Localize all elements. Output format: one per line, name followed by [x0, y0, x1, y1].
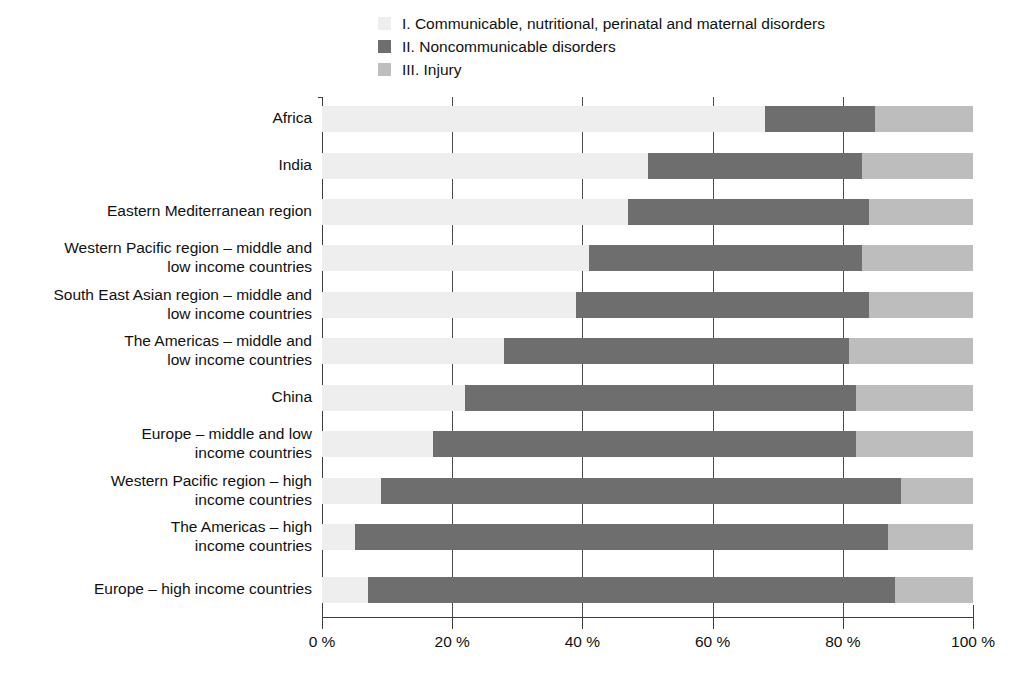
- x-tick-60: [713, 617, 714, 629]
- bar-segment-i: [322, 292, 576, 318]
- x-tick-40: [582, 617, 583, 629]
- bar-row: [322, 199, 973, 225]
- bar-segment-i: [322, 106, 765, 132]
- bar-segment-i: [322, 385, 465, 411]
- legend-swatch-iii: [378, 63, 391, 76]
- bar-row: [322, 338, 973, 364]
- y-axis-label: Europe – high income countries: [0, 579, 312, 599]
- bar-segment-ii: [381, 478, 902, 504]
- y-axis-label: Western Pacific region – middle andlow i…: [0, 238, 312, 277]
- bar-segment-i: [322, 577, 368, 603]
- x-tick-label-80: 80 %: [825, 633, 860, 651]
- bar-segment-iii: [862, 245, 973, 271]
- bar-segment-i: [322, 153, 648, 179]
- bar-segment-ii: [368, 577, 895, 603]
- legend-item-iii: III. Injury: [378, 58, 978, 81]
- x-tick-label-60: 60 %: [695, 633, 730, 651]
- bar-segment-ii: [576, 292, 869, 318]
- bar-segment-iii: [849, 338, 973, 364]
- y-axis-label: Eastern Mediterranean region: [0, 201, 312, 221]
- legend-label-iii: III. Injury: [402, 61, 461, 78]
- y-axis-label: Africa: [0, 108, 312, 128]
- bar-segment-i: [322, 524, 355, 550]
- legend-item-i: I. Communicable, nutritional, perinatal …: [378, 12, 978, 35]
- legend-swatch-i: [378, 17, 391, 30]
- bar-segment-ii: [504, 338, 849, 364]
- legend-swatch-ii: [378, 40, 391, 53]
- bar-segment-ii: [465, 385, 856, 411]
- bar-row: [322, 153, 973, 179]
- bar-segment-iii: [869, 199, 973, 225]
- legend-label-ii: II. Noncommunicable disorders: [402, 38, 616, 55]
- x-tick-label-40: 40 %: [565, 633, 600, 651]
- y-axis-label: The Americas – highincome countries: [0, 517, 312, 556]
- bar-segment-i: [322, 245, 589, 271]
- bar-segment-ii: [589, 245, 862, 271]
- bar-segment-ii: [765, 106, 876, 132]
- bar-segment-iii: [888, 524, 973, 550]
- y-axis-label: Europe – middle and lowincome countries: [0, 424, 312, 463]
- bar-segment-ii: [628, 199, 869, 225]
- x-tick-0: [322, 617, 323, 629]
- bar-segment-ii: [355, 524, 889, 550]
- y-axis-label: China: [0, 387, 312, 407]
- x-tick-80: [843, 617, 844, 629]
- x-tick-label-100: 100 %: [951, 633, 995, 651]
- bar-segment-iii: [901, 478, 973, 504]
- bar-segment-i: [322, 478, 381, 504]
- bar-row: [322, 478, 973, 504]
- bar-segment-iii: [875, 106, 973, 132]
- bar-row: [322, 385, 973, 411]
- bar-row: [322, 577, 973, 603]
- bar-segment-i: [322, 199, 628, 225]
- stacked-bar-chart: I. Communicable, nutritional, perinatal …: [0, 0, 1011, 676]
- bar-segment-iii: [862, 153, 973, 179]
- bar-row: [322, 431, 973, 457]
- bar-row: [322, 292, 973, 318]
- y-axis-label: South East Asian region – middle andlow …: [0, 285, 312, 324]
- bar-segment-iii: [869, 292, 973, 318]
- x-axis-line: [322, 617, 974, 618]
- bar-segment-iii: [895, 577, 973, 603]
- bar-segment-ii: [648, 153, 863, 179]
- bar-segment-ii: [433, 431, 856, 457]
- x-tick-100: [973, 617, 974, 629]
- y-axis-label: India: [0, 155, 312, 175]
- x-tick-label-0: 0 %: [309, 633, 336, 651]
- y-axis-top-cap: [318, 97, 323, 98]
- legend-label-i: I. Communicable, nutritional, perinatal …: [402, 15, 825, 32]
- bar-segment-iii: [856, 385, 973, 411]
- bar-segment-iii: [856, 431, 973, 457]
- legend-item-ii: II. Noncommunicable disorders: [378, 35, 978, 58]
- bar-row: [322, 245, 973, 271]
- bar-segment-i: [322, 338, 504, 364]
- bar-row: [322, 106, 973, 132]
- x-tick-label-20: 20 %: [435, 633, 470, 651]
- y-axis-label: Western Pacific region – highincome coun…: [0, 471, 312, 510]
- bar-row: [322, 524, 973, 550]
- y-axis-label: The Americas – middle andlow income coun…: [0, 331, 312, 370]
- plot-area: 0 %20 %40 %60 %80 %100 %: [322, 97, 973, 617]
- chart-legend: I. Communicable, nutritional, perinatal …: [378, 12, 978, 81]
- x-tick-20: [452, 617, 453, 629]
- bar-segment-i: [322, 431, 433, 457]
